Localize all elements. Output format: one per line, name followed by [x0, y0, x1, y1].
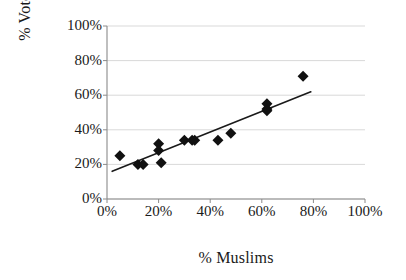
trendline [112, 92, 311, 172]
x-axis-title: % Muslims [107, 248, 365, 268]
axis-lines [107, 26, 365, 199]
trendline-segment [112, 92, 311, 172]
scatter-chart: % Votes 0%20%40%60%80%100% 0%20%40%60%80… [0, 0, 406, 280]
plot-area [0, 0, 406, 280]
data-point-marker [156, 157, 167, 168]
data-markers [114, 71, 308, 170]
data-point-marker [212, 135, 223, 146]
data-point-marker [225, 128, 236, 139]
tick-marks [103, 26, 365, 203]
gridlines [107, 26, 365, 199]
data-point-marker [114, 150, 125, 161]
data-point-marker [298, 71, 309, 82]
